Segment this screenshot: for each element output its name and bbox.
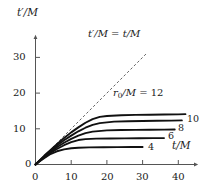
curve-label-8: 8 [178,123,184,133]
x-axis-title: t/M [172,140,191,151]
y-axis-title: t′/M [17,7,38,18]
x-axis-ticks [71,160,178,165]
y-tick-label-30: 30 [13,52,26,62]
curve-label-4: 4 [148,142,154,152]
x-tick-label-40: 40 [172,172,185,182]
series-family-label: r0/M = 12 [113,88,163,99]
x-tick-label-30: 30 [136,172,149,182]
y-tick-label-10: 10 [13,124,26,134]
y-tick-label-20: 20 [13,88,26,98]
chart-figure: t′/M t/M 30 20 10 0 0 10 20 30 40 t′/M =… [0,0,206,191]
curve-label-6: 6 [168,131,174,141]
x-tick-label-0: 0 [32,172,38,182]
x-tick-label-10: 10 [65,172,78,182]
y-tick-label-0: 0 [25,159,31,169]
curve-label-10: 10 [187,114,199,124]
x-tick-label-20: 20 [101,172,114,182]
curve-group [36,114,186,164]
diagonal-line-label: t′/M = t/M [88,29,140,39]
y-axis-ticks [36,57,41,128]
